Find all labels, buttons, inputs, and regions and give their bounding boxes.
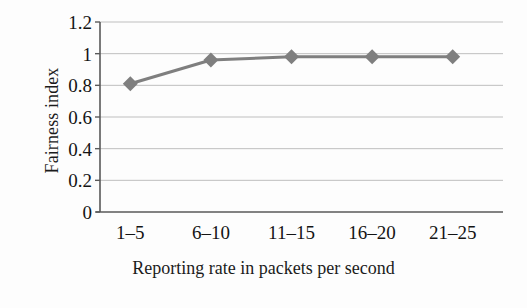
data-point-marker [445,49,460,64]
x-tick-label: 11–15 [268,222,315,244]
y-tick-label: 0.6 [36,108,92,127]
plot-area [100,22,503,212]
chart-figure: Fairness index 1.210.80.60.40.20 1–56–10… [0,0,527,308]
y-tick-label: 0.8 [36,76,92,95]
data-point-marker [123,76,138,91]
y-tick-label: 1 [36,45,92,64]
gridlines [100,22,503,180]
line-chart-svg [100,22,503,212]
x-tick-label: 6–10 [192,222,230,244]
data-point-marker [365,49,380,64]
x-axis-tick-labels: 1–56–1011–1516–2021–25 [100,222,503,256]
x-tick-label: 16–20 [348,222,396,244]
x-tick-label: 1–5 [116,222,145,244]
x-tick-label: 21–25 [429,222,477,244]
y-tick-label: 0.2 [36,171,92,190]
data-point-marker [203,53,218,68]
y-tick-label: 0 [36,203,92,222]
x-axis-title: Reporting rate in packets per second [0,258,527,279]
data-point-marker [284,49,299,64]
y-tick-label: 0.4 [36,140,92,159]
y-tick-label: 1.2 [36,13,92,32]
